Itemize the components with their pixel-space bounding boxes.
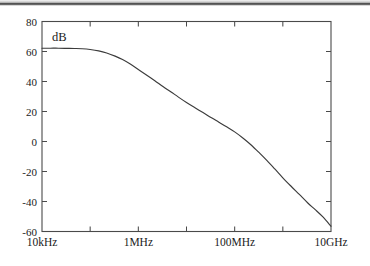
gain-response-curve (42, 48, 331, 226)
x-tick-label: 1MHz (124, 236, 153, 248)
x-tick-label: 10GHz (314, 236, 347, 248)
y-tick-label: 40 (26, 76, 38, 88)
x-tick-label: 100MHz (214, 236, 255, 248)
bode-gain-plot: 10kHz1MHz100MHz10GHz 806040200-20-40-60 … (0, 0, 370, 266)
y-tick-label: 0 (32, 136, 38, 148)
y-axis-tick-labels: 806040200-20-40-60 (22, 16, 37, 238)
y-axis-tick-marks (42, 52, 331, 202)
x-axis-tick-marks (90, 22, 283, 232)
y-tick-label: 20 (26, 106, 38, 118)
x-axis-tick-labels: 10kHz1MHz100MHz10GHz (27, 236, 348, 248)
y-tick-label: -60 (22, 226, 37, 238)
y-tick-label: 80 (26, 16, 38, 28)
y-tick-label: -20 (22, 166, 37, 178)
y-tick-label: -40 (22, 196, 37, 208)
figure-container: 10kHz1MHz100MHz10GHz 806040200-20-40-60 … (0, 0, 370, 266)
y-tick-label: 60 (26, 46, 38, 58)
y-axis-unit-label: dB (52, 30, 67, 44)
plot-frame (42, 22, 331, 232)
